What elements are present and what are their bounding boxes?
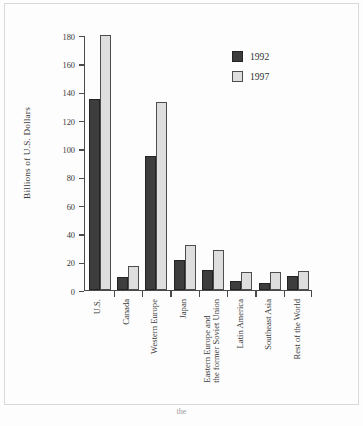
bar-group [85, 36, 113, 290]
bar-1997 [241, 272, 252, 290]
x-axis-label-line1: Southeast Asia [264, 299, 274, 350]
x-label-cell: Western Europe [141, 299, 170, 403]
x-tick-mark [142, 290, 143, 297]
legend-item-1992: 1992 [232, 48, 269, 64]
bar-group [170, 36, 198, 290]
y-tick-label: 80 [67, 174, 75, 183]
bar-groups [85, 36, 312, 290]
x-label-cell: Japan [170, 299, 199, 403]
bar-1992 [230, 281, 241, 289]
y-tick-label: 140 [62, 89, 75, 98]
x-label-cell: Rest of the World [284, 299, 313, 403]
bar-1992 [145, 156, 156, 290]
legend-label-1992: 1992 [250, 51, 269, 62]
plot-area: 020406080100120140160180 [84, 36, 312, 291]
x-tick-mark [199, 290, 200, 297]
x-axis-label-line1: Western Europe [150, 299, 160, 354]
bar-1997 [100, 35, 111, 290]
bar-1992 [287, 276, 298, 290]
legend-item-1997: 1997 [232, 68, 269, 84]
x-tick-mark [170, 290, 171, 297]
y-axis-title: Billions of U.S. Dollars [22, 73, 32, 233]
bar-1997 [156, 102, 167, 289]
x-tick-mark [114, 290, 115, 297]
y-tick-label: 0 [71, 287, 75, 296]
x-axis-label-line1: Canada [121, 299, 131, 325]
bar-group [284, 36, 312, 290]
bar-1992 [174, 260, 185, 290]
bar-group [114, 36, 142, 290]
legend-label-1997: 1997 [250, 71, 269, 82]
x-tick-mark [284, 290, 285, 297]
x-axis-label-line1: Latin America [235, 299, 245, 348]
y-tick-mark: 160 [79, 64, 84, 65]
bar-1997 [298, 271, 309, 289]
y-tick-mark: 100 [79, 149, 84, 150]
y-tick-label: 160 [62, 60, 75, 69]
y-tick-mark: 0 [79, 291, 84, 292]
x-label-cell: Southeast Asia [255, 299, 284, 403]
bar-1992 [117, 277, 128, 290]
y-tick-mark: 20 [79, 263, 84, 264]
legend: 1992 1997 [232, 48, 269, 88]
x-axis-label: Japan [179, 299, 188, 319]
bar-1997 [270, 272, 281, 290]
bar-1997 [185, 245, 196, 290]
y-tick-label: 40 [67, 230, 75, 239]
y-tick-label: 180 [62, 32, 75, 41]
bar-1997 [128, 266, 139, 290]
legend-swatch-1997-icon [232, 71, 243, 82]
y-tick-mark: 80 [79, 178, 84, 179]
x-axis-label: Southeast Asia [265, 299, 274, 350]
y-tick-mark: 140 [79, 93, 84, 94]
x-tick-mark [311, 290, 312, 297]
x-axis-label-line1: Japan [178, 299, 188, 319]
x-axis-label: Eastern Europe andthe former Soviet Unio… [203, 299, 222, 383]
x-axis-labels: U.S.CanadaWestern EuropeJapanEastern Eur… [84, 299, 312, 403]
x-axis-label: Rest of the World [293, 299, 302, 360]
bar-1992 [89, 99, 100, 289]
y-tick-mark: 120 [79, 121, 84, 122]
bar-1997 [213, 250, 224, 289]
caption-fragment: the [0, 407, 363, 416]
bar-group [142, 36, 170, 290]
y-tick-label: 100 [62, 145, 75, 154]
y-tick-label: 60 [67, 202, 75, 211]
x-label-cell: Latin America [227, 299, 256, 403]
bar-1992 [202, 270, 213, 290]
x-axis-label: U.S. [94, 299, 103, 314]
x-axis-label: Western Europe [151, 299, 160, 354]
y-tick-mark: 40 [79, 234, 84, 235]
x-label-cell: Canada [113, 299, 142, 403]
bar-group [199, 36, 227, 290]
x-axis-label-line1: Rest of the World [292, 299, 302, 360]
x-axis-label: Canada [122, 299, 131, 325]
chart-page: Billions of U.S. Dollars 020406080100120… [0, 0, 363, 426]
y-tick-mark: 60 [79, 206, 84, 207]
y-tick-mark: 180 [79, 36, 84, 37]
bar-1992 [259, 283, 270, 289]
y-tick-label: 20 [67, 259, 75, 268]
x-tick-mark [255, 290, 256, 297]
x-tick-mark [227, 290, 228, 297]
x-axis-label: Latin America [236, 299, 245, 348]
x-label-cell: U.S. [84, 299, 113, 403]
x-label-cell: Eastern Europe andthe former Soviet Unio… [198, 299, 227, 403]
legend-swatch-1992-icon [232, 51, 243, 62]
x-axis-label-line2: the former Soviet Union [212, 299, 221, 383]
x-axis-label-line1: U.S. [93, 299, 103, 314]
y-tick-label: 120 [62, 117, 75, 126]
